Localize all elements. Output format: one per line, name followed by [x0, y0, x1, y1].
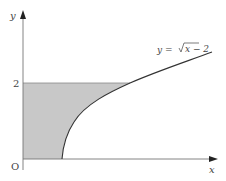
graph-canvas: y x O 2 y = x − 2 — [0, 0, 226, 181]
x-axis-label: x — [209, 164, 215, 175]
origin-label: O — [11, 161, 19, 172]
equation-prefix: y = — [156, 45, 173, 55]
y-axis-arrow-icon — [20, 10, 26, 19]
curve-equation-label: y = x − 2 — [156, 43, 209, 55]
x-axis-arrow-icon — [209, 156, 218, 162]
shaded-region — [23, 83, 130, 159]
y-axis-label: y — [9, 10, 16, 21]
equation-radicand: x − 2 — [185, 44, 209, 54]
y-tick-label-2: 2 — [13, 78, 19, 89]
